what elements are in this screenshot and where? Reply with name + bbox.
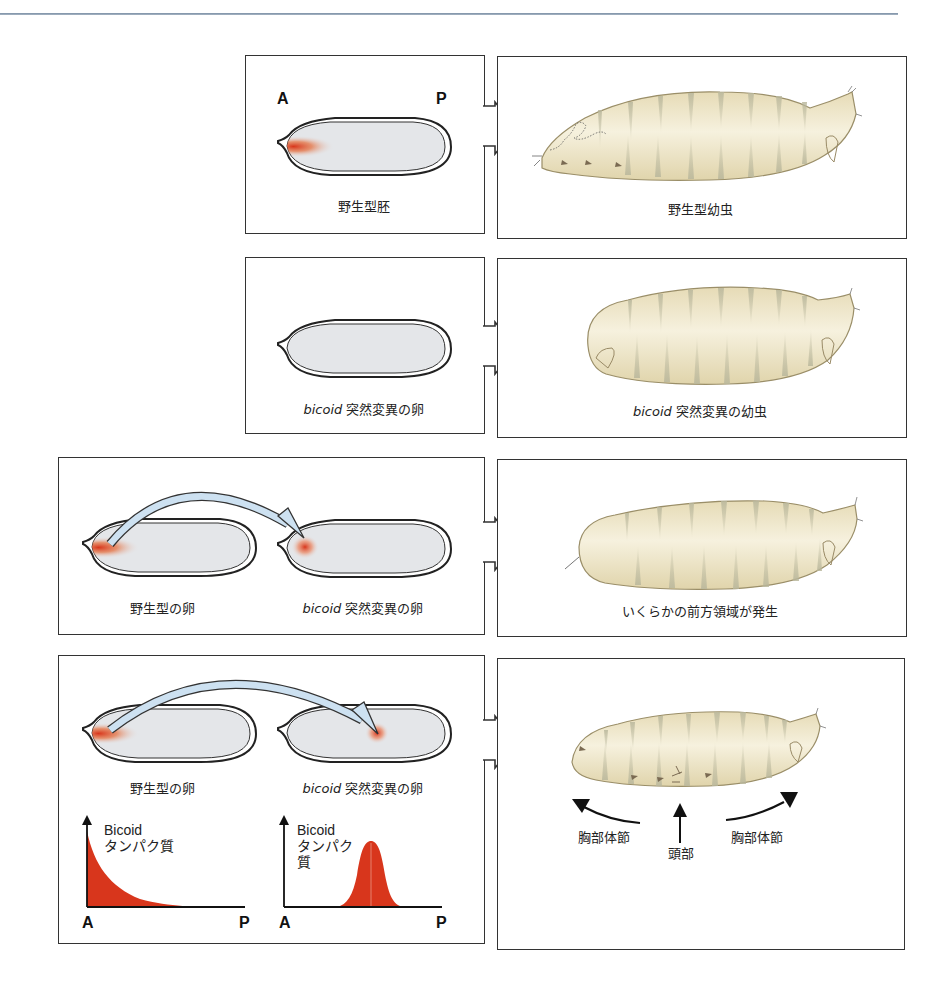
wildtype-larva-caption: 野生型幼虫 (668, 199, 733, 218)
x-axis-start-label: A (82, 914, 94, 932)
gene-name: bicoid (303, 781, 342, 796)
partial-anterior-larva (565, 493, 875, 598)
gene-name: bicoid (303, 601, 342, 616)
partial-anterior-larva-caption: いくらかの前方領域が発生 (622, 601, 778, 620)
x-axis-end-label: P (436, 914, 447, 932)
anterior-label: A (277, 90, 289, 108)
bicoid-mutant-larva (578, 278, 878, 393)
donor-egg-caption: 野生型の卵 (130, 778, 195, 797)
wildtype-embryo-egg (275, 113, 455, 179)
bicoid-egg-caption: bicoid 突然変異の卵 (304, 399, 425, 418)
gene-name: bicoid (633, 404, 672, 419)
posterior-label: P (436, 90, 447, 108)
wildtype-larva (530, 80, 875, 180)
up-arrow-icon (672, 803, 688, 843)
left-curved-arrow-icon (570, 795, 650, 827)
bicoid-mutant-egg (275, 315, 455, 381)
recipient-egg-caption: bicoid 突然変異の卵 (303, 598, 424, 617)
thorax-label-right: 胸部体節 (731, 827, 783, 846)
bicoid-larva-caption: bicoid 突然変異の幼虫 (633, 401, 767, 420)
recipient-egg-caption: bicoid 突然変異の卵 (303, 778, 424, 797)
x-axis-start-label: A (279, 914, 291, 932)
transfer-arrow-icon (100, 482, 320, 552)
donor-egg-caption: 野生型の卵 (130, 598, 195, 617)
gene-name: bicoid (304, 402, 343, 417)
chart-title: Bicoid タンパク質 (104, 822, 174, 854)
head-label: 頭部 (668, 843, 694, 862)
chart-title: Bicoid タンパク 質 (297, 822, 353, 870)
x-axis-end-label: P (239, 914, 250, 932)
duplicated-thorax-larva (568, 700, 838, 795)
thorax-label-left: 胸部体節 (578, 827, 630, 846)
wildtype-embryo-caption: 野生型胚 (338, 196, 390, 215)
header-rule (0, 13, 898, 15)
right-curved-arrow-icon (722, 790, 802, 822)
transfer-arrow-icon (100, 670, 390, 740)
